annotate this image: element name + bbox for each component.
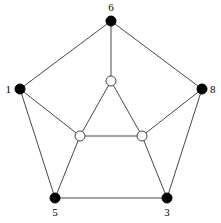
filled-node-v5 (50, 193, 60, 203)
hollow-node-inLeft (75, 131, 85, 141)
edge-v6-v1 (20, 21, 111, 89)
edge-v5-inLeft (55, 136, 80, 198)
edge-v8-v3 (167, 89, 202, 198)
edge-v3-inRight (142, 136, 167, 198)
graph-svg: 61853 (0, 0, 221, 223)
filled-node-v3 (162, 193, 172, 203)
node-label-3: 3 (164, 206, 170, 218)
graph-diagram: 61853 (0, 0, 221, 223)
edge-inTop-inRight (111, 81, 142, 136)
filled-node-v8 (197, 84, 207, 94)
node-label-8: 8 (210, 83, 216, 95)
node-label-6: 6 (108, 1, 114, 13)
hollow-node-inRight (137, 131, 147, 141)
edge-v6-v8 (111, 21, 202, 89)
node-label-1: 1 (6, 83, 12, 95)
edge-v1-v5 (20, 89, 55, 198)
edge-v1-inLeft (20, 89, 80, 136)
edges-group (20, 21, 202, 198)
filled-node-v1 (15, 84, 25, 94)
filled-node-v6 (106, 16, 116, 26)
edge-inTop-inLeft (80, 81, 111, 136)
hollow-node-inTop (106, 76, 116, 86)
node-label-5: 5 (52, 206, 58, 218)
edge-v8-inRight (142, 89, 202, 136)
